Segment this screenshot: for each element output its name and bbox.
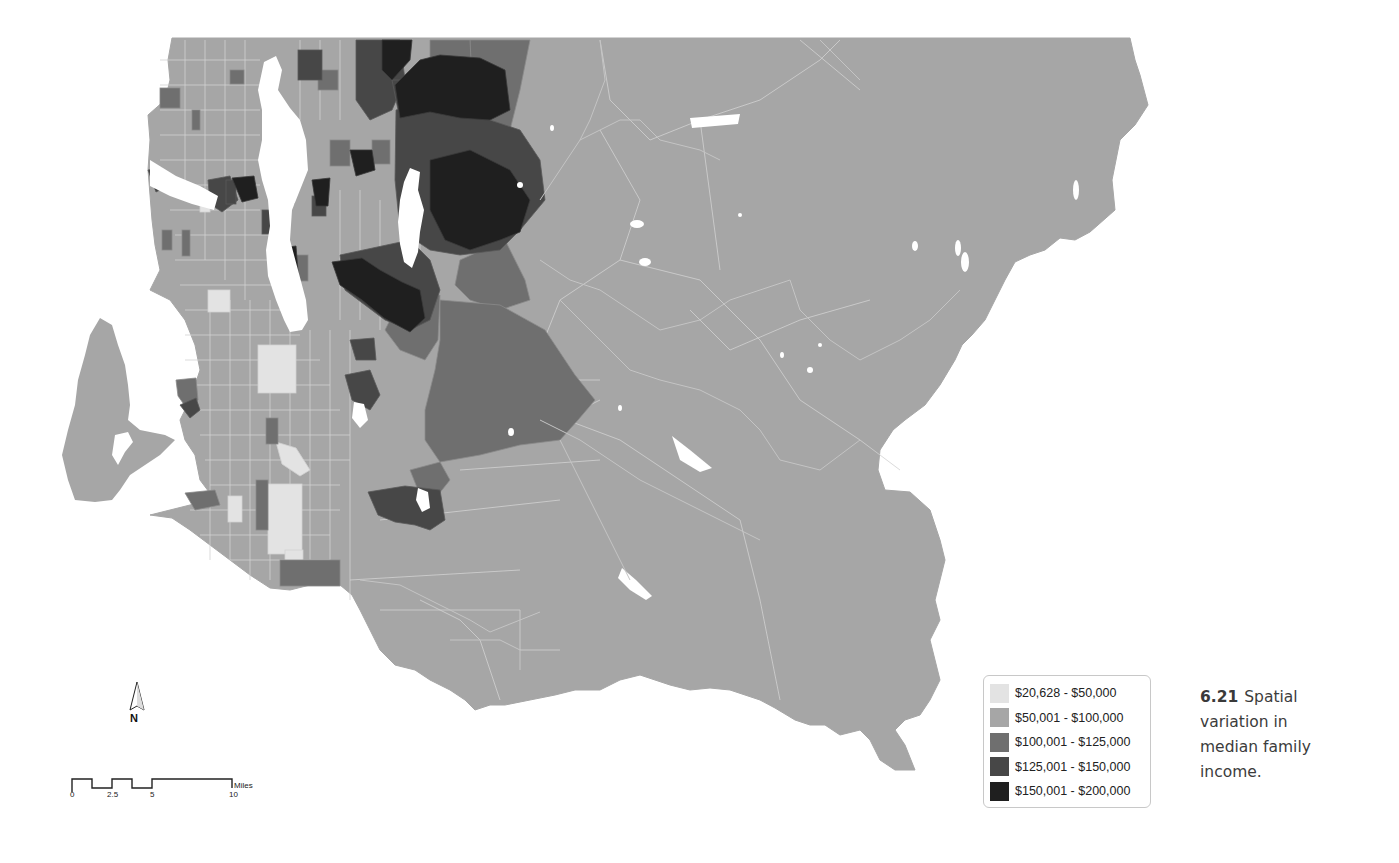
scale-unit-label: Miles [234,781,253,790]
legend-item: $150,001 - $200,000 [990,779,1144,804]
legend-swatch [990,733,1009,752]
scale-tick-10: 10 [229,790,238,799]
legend-label: $100,001 - $125,000 [1015,735,1130,749]
legend-swatch [990,708,1009,727]
legend-label: $20,628 - $50,000 [1015,686,1116,700]
legend-swatch [990,782,1009,801]
scale-tick-5: 5 [150,790,154,799]
vashon-island [62,318,175,502]
legend-item: $20,628 - $50,000 [990,681,1144,706]
north-arrow-label: N [130,712,138,724]
scale-tick-0: 0 [70,790,74,799]
figure-number: 6.21 [1200,688,1238,706]
legend-swatch [990,757,1009,776]
legend-label: $50,001 - $100,000 [1015,711,1123,725]
scale-tick-2-5: 2.5 [107,790,118,799]
legend-item: $50,001 - $100,000 [990,706,1144,731]
legend-label: $125,001 - $150,000 [1015,760,1130,774]
legend-item: $100,001 - $125,000 [990,730,1144,755]
figure-caption: 6.21Spatial variation in median family i… [1200,685,1340,785]
choropleth-map [0,0,1399,863]
legend-item: $125,001 - $150,000 [990,755,1144,780]
legend: $20,628 - $50,000 $50,001 - $100,000 $10… [983,675,1151,808]
legend-label: $150,001 - $200,000 [1015,784,1130,798]
legend-swatch [990,684,1009,703]
